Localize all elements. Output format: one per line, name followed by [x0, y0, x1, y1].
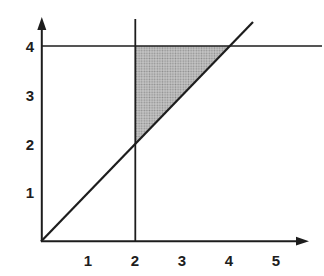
x-tick-label-3: 3	[178, 252, 186, 269]
y-tick-label-1: 1	[26, 184, 34, 201]
x-tick-label-4: 4	[225, 252, 234, 269]
y-axis-arrowhead-icon	[37, 17, 46, 30]
y-tick-label-2: 2	[26, 136, 34, 153]
figure: 4 3 2 1 1 2 3 4 5	[0, 0, 324, 276]
x-axis-arrowhead-icon	[296, 237, 309, 246]
figure-canvas: 4 3 2 1 1 2 3 4 5	[0, 0, 324, 276]
x-tick-label-5: 5	[272, 252, 280, 269]
x-tick-label-2: 2	[131, 252, 139, 269]
x-tick-label-1: 1	[84, 252, 92, 269]
y-tick-label-3: 3	[26, 87, 34, 104]
y-tick-label-4: 4	[26, 38, 35, 55]
